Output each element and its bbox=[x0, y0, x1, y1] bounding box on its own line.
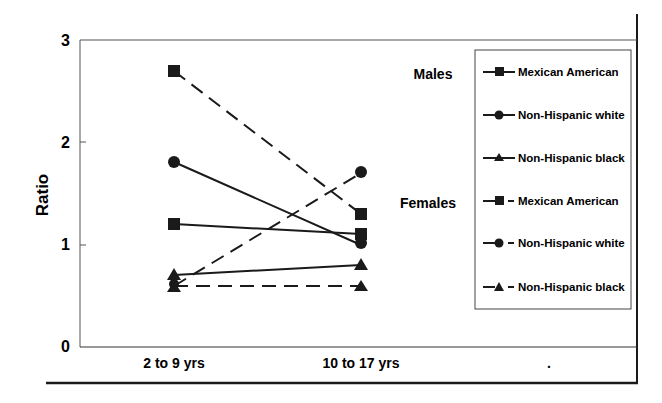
circle-marker-icon bbox=[355, 166, 367, 178]
circle-marker-icon bbox=[168, 156, 180, 168]
legend-square-icon bbox=[495, 67, 504, 76]
line-chart: 0 1 2 3 Ratio 2 to 9 yrs 10 to 17 yrs . … bbox=[0, 0, 662, 403]
y-tick-0: 0 bbox=[61, 338, 70, 355]
legend-square-icon bbox=[495, 196, 504, 205]
series-lines bbox=[174, 71, 361, 286]
legend-group-males: Males bbox=[414, 66, 453, 82]
square-marker-icon bbox=[168, 218, 180, 230]
x-tick-10-to-17: 10 to 17 yrs bbox=[322, 355, 399, 371]
legend-label: Non-Hispanic black bbox=[518, 281, 625, 293]
series-markers bbox=[167, 65, 368, 292]
line-females-mexican-american bbox=[174, 71, 361, 214]
triangle-marker-icon bbox=[354, 258, 368, 270]
line-males-mexican-american bbox=[174, 224, 361, 234]
y-tick-2: 2 bbox=[61, 134, 70, 151]
legend-group-females: Females bbox=[400, 195, 456, 211]
y-axis-label: Ratio bbox=[33, 174, 52, 217]
square-marker-icon bbox=[168, 65, 180, 77]
x-tick-blank: . bbox=[547, 355, 551, 371]
legend-circle-icon bbox=[495, 239, 504, 248]
square-marker-icon bbox=[355, 208, 367, 220]
circle-marker-icon bbox=[355, 237, 367, 249]
legend-label: Non-Hispanic white bbox=[518, 109, 625, 121]
y-tick-3: 3 bbox=[61, 32, 70, 49]
legend: Mexican American Non-Hispanic white Non-… bbox=[475, 50, 631, 309]
y-axis-ticks: 0 1 2 3 bbox=[61, 32, 86, 355]
legend-label: Mexican American bbox=[518, 66, 619, 78]
legend-circle-icon bbox=[495, 111, 504, 120]
x-tick-2-to-9: 2 to 9 yrs bbox=[143, 355, 205, 371]
legend-label: Non-Hispanic black bbox=[518, 152, 625, 164]
legend-label: Non-Hispanic white bbox=[518, 237, 625, 249]
legend-label: Mexican American bbox=[518, 195, 619, 207]
y-tick-1: 1 bbox=[61, 236, 70, 253]
